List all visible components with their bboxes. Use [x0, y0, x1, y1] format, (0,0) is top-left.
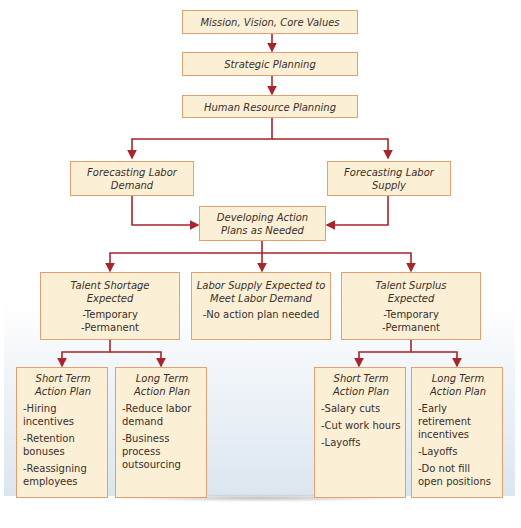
title-line: Action Plan: [23, 385, 103, 398]
list-item: -Reduce labor demand: [122, 402, 202, 428]
list-item: -Early retirement incentives: [418, 402, 498, 441]
shortage-long-term-plan-box: Long Term Action Plan -Reduce labor dema…: [115, 367, 207, 498]
title-line: Action Plan: [418, 385, 498, 398]
title-line: Talent Surplus: [342, 279, 480, 292]
title-line: Developing Action: [200, 211, 325, 224]
title-line: Labor Supply Expected to: [192, 279, 330, 292]
title-line: Long Term: [418, 372, 498, 385]
list-item: -Salary cuts: [321, 402, 401, 415]
title-line: Meet Labor Demand: [192, 292, 330, 305]
labor-balance-box: Labor Supply Expected to Meet Labor Dema…: [191, 272, 331, 340]
list-item: -Temporary: [342, 308, 480, 321]
box-title: Mission, Vision, Core Values: [183, 16, 357, 29]
title-line: Forecasting Labor: [71, 166, 193, 179]
box-title: Strategic Planning: [183, 58, 357, 71]
list-item: -Business process outsourcing: [122, 432, 202, 471]
list-item: -Permanent: [342, 321, 480, 334]
forecast-supply-box: Forecasting Labor Supply: [327, 161, 451, 196]
list-item: -Permanent: [41, 321, 179, 334]
title-line: Action Plan: [321, 385, 401, 398]
title-line: Plans as Needed: [200, 224, 325, 237]
title-line: Action Plan: [122, 385, 202, 398]
list-item: -Temporary: [41, 308, 179, 321]
talent-surplus-box: Talent Surplus Expected -Temporary -Perm…: [341, 272, 481, 340]
box-title: Human Resource Planning: [183, 101, 357, 114]
list-item: -Retention bonuses: [23, 432, 103, 458]
title-line: Long Term: [122, 372, 202, 385]
title-line: Expected: [41, 292, 179, 305]
list-item: -No action plan needed: [192, 308, 330, 321]
list-item: -Hiring incentives: [23, 402, 103, 428]
shortage-short-term-plan-box: Short Term Action Plan -Hiring incentive…: [16, 367, 108, 498]
list-item: -Layoffs: [321, 436, 401, 449]
title-line: Forecasting Labor: [328, 166, 450, 179]
hr-planning-box: Human Resource Planning: [182, 95, 358, 118]
list-item: -Reassigning employees: [23, 462, 103, 488]
list-item: -Layoffs: [418, 445, 498, 458]
mission-vision-box: Mission, Vision, Core Values: [182, 10, 358, 34]
list-item: -Cut work hours: [321, 419, 401, 432]
title-line: Short Term: [23, 372, 103, 385]
title-line: Expected: [342, 292, 480, 305]
title-line: Talent Shortage: [41, 279, 179, 292]
surplus-short-term-plan-box: Short Term Action Plan -Salary cuts -Cut…: [314, 367, 406, 498]
talent-shortage-box: Talent Shortage Expected -Temporary -Per…: [40, 272, 180, 340]
title-line: Supply: [328, 179, 450, 192]
list-item: -Do not fill open positions: [418, 462, 498, 488]
developing-action-plans-box: Developing Action Plans as Needed: [199, 206, 326, 241]
title-line: Short Term: [321, 372, 401, 385]
surplus-long-term-plan-box: Long Term Action Plan -Early retirement …: [411, 367, 503, 498]
title-line: Demand: [71, 179, 193, 192]
strategic-planning-box: Strategic Planning: [182, 52, 358, 76]
forecast-demand-box: Forecasting Labor Demand: [70, 161, 194, 196]
